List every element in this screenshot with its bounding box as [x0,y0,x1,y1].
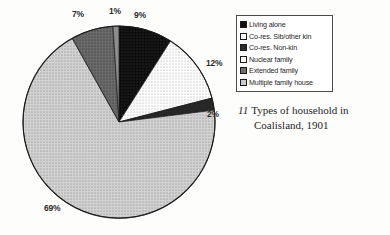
chart-legend: Living alone Co-res. Sib/other kin Co-re… [236,15,333,92]
legend-item-co-res-sib-other-kin[interactable]: Co-res. Sib/other kin [240,31,330,42]
legend-label: Co-res. Non-kin [249,43,297,52]
mid-gray-swatch-icon [240,67,247,74]
pie-label-extended-family: 7% [72,9,84,19]
caption-line-2: Coalisland, 1901 [238,118,388,133]
white-swatch-icon [240,33,247,40]
legend-label: Extended family [249,66,298,75]
pie-chart: 9% 12% 2% 69% 7% 1% [16,18,228,228]
pie-label-co-res-non-kin: 2% [207,109,219,119]
figure-caption: 11Types of household in Coalisland, 1901 [238,103,388,133]
dark-swatch-icon [240,44,247,51]
legend-item-nuclear-family[interactable]: Nuclear family [240,54,330,65]
pie-label-living-alone: 9% [134,10,146,20]
gray-dotted-swatch-icon [240,79,247,86]
figure-number: 11 [238,104,248,116]
legend-label: Co-res. Sib/other kin [249,32,311,41]
legend-label: Living alone [249,20,286,29]
legend-item-living-alone[interactable]: Living alone [240,19,330,30]
legend-item-extended-family[interactable]: Extended family [240,65,330,76]
pie-label-multiple-family-house: 1% [109,6,121,16]
legend-item-co-res-non-kin[interactable]: Co-res. Non-kin [240,42,330,53]
light-dotted-swatch-icon [240,56,247,63]
caption-line-1: Types of household in [251,104,348,116]
pie-label-co-res-sib-other-kin: 12% [206,58,222,68]
legend-label: Multiple family house [249,78,313,87]
pie-label-nuclear-family: 69% [44,203,60,213]
pie-chart-svg [16,18,228,228]
figure-container: 9% 12% 2% 69% 7% 1% Living alone Co-res.… [0,0,390,235]
solid-black-swatch-icon [240,21,247,28]
legend-item-multiple-family-house[interactable]: Multiple family house [240,77,330,88]
legend-label: Nuclear family [249,55,292,64]
